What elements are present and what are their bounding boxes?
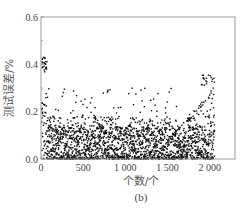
y-tick-label: 0.6 <box>26 12 39 23</box>
x-tick-label: 0 <box>39 162 44 173</box>
x-tick-label: 500 <box>76 162 91 173</box>
y-axis-label: 测试误差/% <box>2 59 16 117</box>
y-tick-label: 0.2 <box>26 106 39 117</box>
x-tick-label: 1 500 <box>156 162 179 173</box>
y-tick-label: 0.0 <box>26 154 39 165</box>
scatter-chart: 0.00.20.40.6 05001 0001 5002 000 测试误差/% … <box>0 0 241 209</box>
x-tick-label: 1 000 <box>114 162 137 173</box>
y-tick-label: 0.4 <box>26 59 39 70</box>
x-axis-label: 个数/个 <box>123 175 160 188</box>
data-points <box>41 57 215 160</box>
figure-caption: (b) <box>135 191 148 204</box>
x-tick-label: 2 000 <box>198 162 221 173</box>
